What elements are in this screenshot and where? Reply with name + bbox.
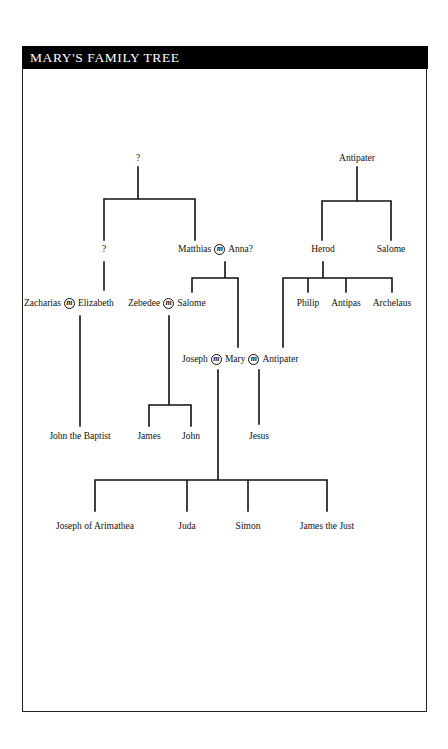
node-zebedee: Zebedee bbox=[128, 297, 160, 309]
tree-connectors bbox=[0, 0, 448, 749]
node-juda: Juda bbox=[178, 520, 195, 532]
node-james: James bbox=[137, 430, 160, 442]
couple-zacharias-elizabeth: Zacharias m Elizabeth bbox=[24, 297, 114, 309]
node-simon: Simon bbox=[236, 520, 261, 532]
node-zacharias: Zacharias bbox=[24, 297, 61, 309]
node-antipas: Antipas bbox=[331, 297, 361, 309]
marriage-icon: m bbox=[64, 298, 75, 309]
node-antipater-elder: Antipater bbox=[339, 152, 375, 164]
couple-joseph-mary-antipater: Joseph m Mary m Antipater bbox=[182, 353, 298, 365]
node-elizabeth: Elizabeth bbox=[78, 297, 114, 309]
node-unknown-root: ? bbox=[136, 152, 140, 164]
node-mary: Mary bbox=[225, 353, 246, 365]
node-salome: Salome bbox=[177, 297, 206, 309]
node-joseph: Joseph bbox=[182, 353, 208, 365]
node-james-the-just: James the Just bbox=[300, 520, 354, 532]
node-salome-sister: Salome bbox=[377, 243, 406, 255]
node-jesus: Jesus bbox=[249, 430, 269, 442]
node-unknown-child: ? bbox=[102, 243, 106, 255]
node-antipater: Antipater bbox=[262, 353, 298, 365]
node-john-the-baptist: John the Baptist bbox=[49, 430, 110, 442]
node-john: John bbox=[182, 430, 200, 442]
couple-zebedee-salome: Zebedee m Salome bbox=[128, 297, 206, 309]
marriage-icon: m bbox=[214, 244, 225, 255]
marriage-icon: m bbox=[248, 354, 259, 365]
marriage-icon: m bbox=[163, 298, 174, 309]
marriage-icon: m bbox=[211, 354, 222, 365]
couple-matthias-anna: Matthias m Anna? bbox=[178, 243, 253, 255]
node-anna: Anna? bbox=[228, 243, 253, 255]
node-joseph-of-arimathea: Joseph of Arimathea bbox=[56, 520, 134, 532]
node-matthias: Matthias bbox=[178, 243, 211, 255]
node-archelaus: Archelaus bbox=[373, 297, 412, 309]
node-herod: Herod bbox=[311, 243, 335, 255]
node-philip: Philip bbox=[297, 297, 320, 309]
